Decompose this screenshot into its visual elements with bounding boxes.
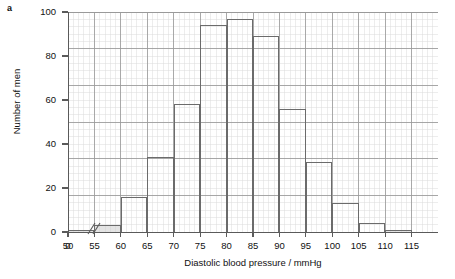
- panel-label-a: a: [7, 3, 12, 13]
- histogram-bar: [121, 197, 147, 232]
- x-tick: [147, 232, 148, 237]
- axis-break-icon: [84, 222, 104, 235]
- y-tick-label: 60: [30, 94, 56, 105]
- y-tick-label: 20: [30, 182, 56, 193]
- x-axis-title: Diastolic blood pressure / mmHg: [68, 257, 438, 268]
- x-tick: [173, 232, 174, 237]
- y-tick-label: 80: [30, 50, 56, 61]
- x-tick-label: 65: [134, 240, 160, 251]
- x-tick-label: 110: [372, 240, 398, 251]
- y-axis-line: [68, 12, 69, 233]
- histogram-bar: [227, 19, 253, 232]
- histogram-bar: [359, 223, 385, 232]
- x-tick: [226, 232, 227, 237]
- histogram-bar: [253, 36, 279, 232]
- histogram-bar: [200, 25, 226, 232]
- x-tick-label: 100: [319, 240, 345, 251]
- x-tick-label: 75: [187, 240, 213, 251]
- histogram-bar: [147, 157, 173, 232]
- x-tick: [332, 232, 333, 237]
- y-tick: [62, 11, 68, 12]
- x-tick-label: 55: [81, 240, 107, 251]
- x-tick: [120, 232, 121, 237]
- y-tick-label: 0: [30, 226, 56, 237]
- histogram-bar: [174, 104, 200, 232]
- histogram-bar: [306, 162, 332, 232]
- histogram-bar: [279, 109, 305, 232]
- x-tick: [200, 232, 201, 237]
- x-tick-label: 80: [214, 240, 240, 251]
- x-tick: [358, 232, 359, 237]
- x-tick: [252, 232, 253, 237]
- x-tick-label: 115: [399, 240, 425, 251]
- x-tick-label: 60: [108, 240, 134, 251]
- x-tick: [411, 232, 412, 237]
- x-tick-label: 50: [55, 240, 81, 251]
- histogram-bar: [332, 203, 358, 232]
- x-tick-label: 70: [161, 240, 187, 251]
- x-tick: [67, 232, 68, 237]
- x-tick-label: 90: [266, 240, 292, 251]
- y-tick-label: 40: [30, 138, 56, 149]
- plot-area: [68, 12, 438, 232]
- y-tick-label: 100: [30, 6, 56, 17]
- histogram-figure: a 020406080100 0505560657075808590951001…: [0, 0, 455, 279]
- y-tick: [62, 187, 68, 188]
- x-tick-label: 105: [346, 240, 372, 251]
- x-tick-label: 85: [240, 240, 266, 251]
- x-tick: [385, 232, 386, 237]
- y-tick: [62, 99, 68, 100]
- x-tick: [279, 232, 280, 237]
- x-tick: [305, 232, 306, 237]
- y-tick: [62, 55, 68, 56]
- y-axis-title: Number of men: [11, 22, 22, 182]
- x-tick-label: 95: [293, 240, 319, 251]
- y-tick: [62, 143, 68, 144]
